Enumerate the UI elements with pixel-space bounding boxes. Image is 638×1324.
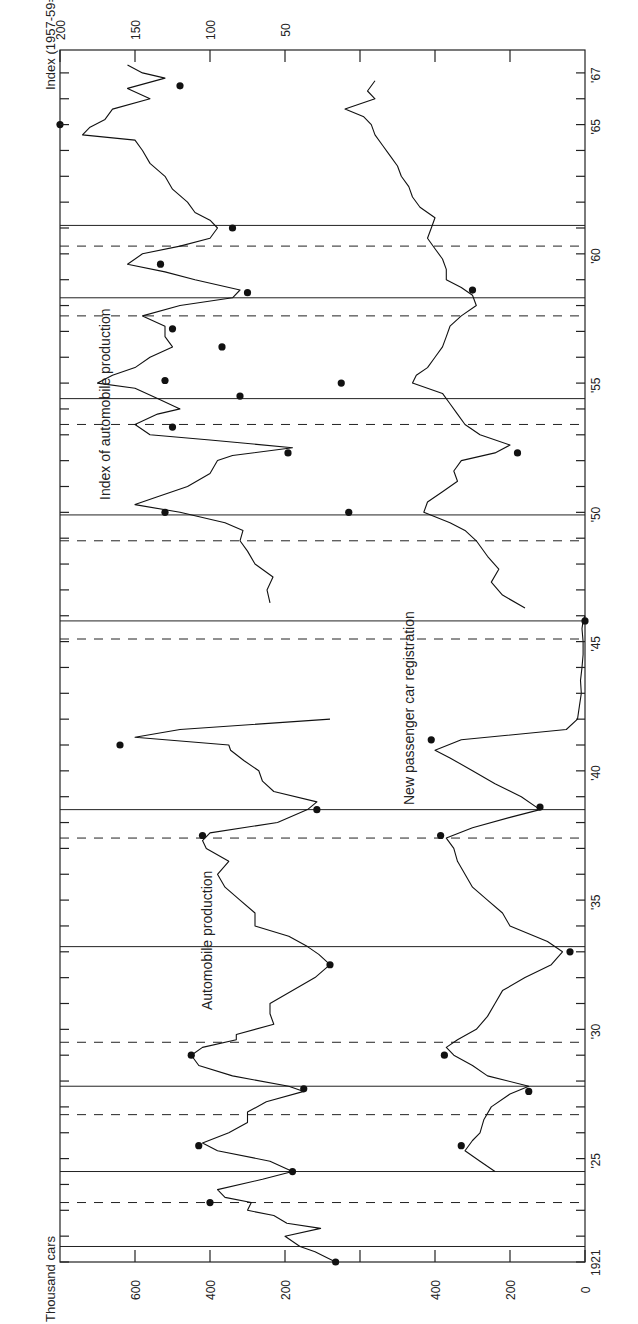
turning-point-dot xyxy=(566,948,573,955)
turning-point-dot xyxy=(289,1168,296,1175)
turning-point-dot xyxy=(428,736,435,743)
year-tick-label: '35 xyxy=(589,894,603,910)
turning-point-dot xyxy=(169,325,176,332)
year-tick-label: '67 xyxy=(589,67,603,83)
turning-point-dot xyxy=(514,449,521,456)
tick-layer: 1921'25'30'35'40'45'50'55'60'65'67600400… xyxy=(54,20,603,1300)
turning-point-dot xyxy=(206,1199,213,1206)
thousand-tick-label: 600 xyxy=(129,1280,143,1300)
auto-production-label: Automobile production xyxy=(199,871,215,1010)
year-tick-label: '50 xyxy=(589,506,603,522)
turning-point-dot xyxy=(195,1142,202,1149)
year-tick-label: '65 xyxy=(589,119,603,135)
turning-point-dot xyxy=(525,1088,532,1095)
automobile-production-line xyxy=(135,719,336,1262)
index-tick-label: 150 xyxy=(129,20,143,40)
turning-point-dot xyxy=(458,1142,465,1149)
turning-point-dot xyxy=(244,289,251,296)
turning-point-dot xyxy=(236,392,243,399)
index-tick-label: 100 xyxy=(204,20,218,40)
turning-point-dot xyxy=(437,832,444,839)
turning-point-dot xyxy=(469,286,476,293)
year-tick-label: '40 xyxy=(589,765,603,781)
thousand-tick-label: 400 xyxy=(204,1280,218,1300)
index-production-line xyxy=(83,65,293,603)
turning-point-dot xyxy=(313,806,320,813)
thousand-tick-label: 400 xyxy=(429,1280,443,1300)
turning-point-dot xyxy=(536,803,543,810)
year-tick-label: 1921 xyxy=(589,1249,603,1276)
turning-point-dot xyxy=(199,832,206,839)
turning-point-dot xyxy=(116,741,123,748)
thousand-cars-axis-label: Thousand cars xyxy=(43,1236,58,1322)
year-tick-label: '25 xyxy=(589,1153,603,1169)
turning-point-dot xyxy=(161,377,168,384)
registration-postwar-line xyxy=(345,81,525,608)
thousand-tick-label: 0 xyxy=(579,1286,593,1293)
turning-point-dot xyxy=(218,343,225,350)
turning-point-dot xyxy=(157,261,164,268)
year-tick-label: '55 xyxy=(589,377,603,393)
turning-point-dot xyxy=(284,449,291,456)
turning-point-dot xyxy=(338,380,345,387)
turning-point-dot xyxy=(345,509,352,516)
turning-point-dot xyxy=(300,1085,307,1092)
reference-lines xyxy=(60,225,585,1246)
turning-point-dot xyxy=(326,961,333,968)
registration-line xyxy=(435,616,585,1172)
series-layer xyxy=(83,65,586,1262)
turning-point-dot xyxy=(229,224,236,231)
turning-point-dot xyxy=(332,1258,339,1265)
year-tick-label: '60 xyxy=(589,248,603,264)
turning-point-dot xyxy=(176,82,183,89)
turning-point-dot xyxy=(441,1052,448,1059)
turning-point-dot xyxy=(161,509,168,516)
year-tick-label: '45 xyxy=(589,636,603,652)
turning-point-dot xyxy=(169,423,176,430)
marker-layer xyxy=(56,82,588,1265)
automobile-production-chart: 1921'25'30'35'40'45'50'55'60'65'67600400… xyxy=(0,0,638,1324)
turning-point-dot xyxy=(188,1052,195,1059)
index-production-label: Index of automobile production xyxy=(97,309,113,500)
thousand-tick-label: 200 xyxy=(279,1280,293,1300)
turning-point-dot xyxy=(581,617,588,624)
registration-label: New passenger car registration xyxy=(401,611,417,805)
index-tick-label: 50 xyxy=(279,23,293,37)
thousand-tick-label: 200 xyxy=(504,1280,518,1300)
year-tick-label: '30 xyxy=(589,1023,603,1039)
index-axis-label: Index (1957-59=100) xyxy=(43,0,58,90)
